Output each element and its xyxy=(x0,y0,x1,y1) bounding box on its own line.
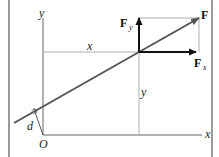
origin-label: O xyxy=(39,137,48,151)
force-fy-subscript: y xyxy=(128,23,133,32)
y-distance-label: y xyxy=(140,85,147,99)
moment-arm-label: d xyxy=(27,119,34,133)
x-axis-label: x xyxy=(204,127,211,141)
force-fy-label: F xyxy=(120,16,127,30)
force-moment-diagram: y x O x y d F F y F x xyxy=(0,0,219,157)
force-fx-label: F xyxy=(194,56,201,70)
force-f-arrow xyxy=(14,18,199,123)
x-distance-label: x xyxy=(86,39,93,53)
force-f-label: F xyxy=(201,8,208,22)
force-fx-subscript: x xyxy=(202,63,207,72)
y-axis-label: y xyxy=(38,6,45,20)
